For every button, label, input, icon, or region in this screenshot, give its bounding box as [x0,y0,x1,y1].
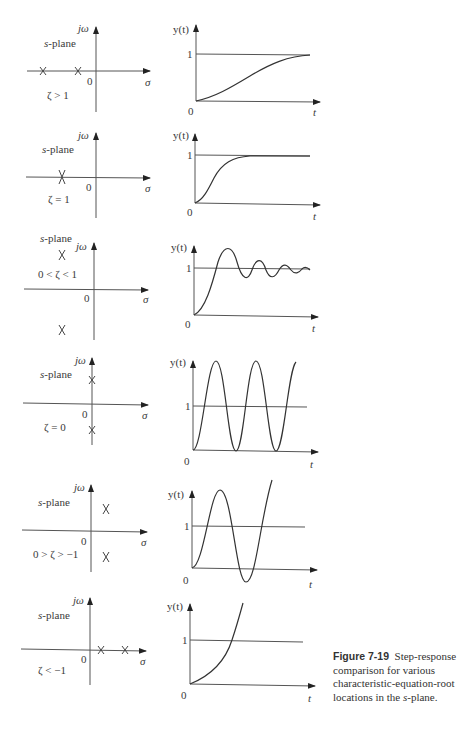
origin-label: 0 [86,181,92,193]
one-level-label: 1 [187,149,193,161]
figure-number: Figure 7-19 [333,650,389,662]
t-axis-label: t [308,692,312,704]
pole-x-icon [59,250,65,260]
origin-label: 0 [188,105,194,117]
sigma-axis-label: σ [145,182,151,194]
step-response-figure: jω s-plane 0 σ ζ > 1 y(t) 1 0 t jω s-pla… [0,0,462,738]
splane-label: s-plane [38,609,70,621]
splane-label: s-plane [42,143,74,155]
one-level-label: 1 [187,48,193,60]
response-plot-row-3 [194,246,318,317]
t-axis-label: t [309,578,313,590]
t-axis-label: t [313,210,317,222]
response-plot-row-6 [190,603,315,686]
yt-axis-label: y(t) [168,488,184,501]
origin-label: 0 [184,455,190,467]
jw-axis-label: jω [71,594,84,606]
jw-axis-label: jω [76,129,89,141]
splane-label: s-plane [40,232,72,244]
zeta-label: ζ = 0 [44,421,66,434]
caption-end: -plane. [407,691,437,703]
origin-label: 0 [181,689,187,701]
one-level-label: 1 [185,400,191,412]
one-level-label: 1 [182,634,188,646]
t-axis-label: t [313,106,317,118]
sigma-axis-label: σ [140,655,146,667]
zeta-label: 0 > ζ > −1 [33,548,78,561]
response-plot-row-5 [192,480,317,582]
response-plot-row-4 [193,361,318,452]
origin-label: 0 [183,574,189,586]
zeta-label: ζ < −1 [38,664,66,677]
zeta-label: 0 < ζ < 1 [38,268,77,281]
yt-axis-label: y(t) [173,129,189,142]
zeta-label: ζ > 1 [47,89,69,102]
t-axis-label: t [312,322,316,334]
jw-axis-label: jω [73,354,86,366]
origin-label: 0 [81,535,87,547]
t-axis-label: t [310,458,314,470]
sigma-axis-label: σ [141,536,147,548]
one-level-label: 1 [184,520,190,532]
origin-label: 0 [84,292,90,304]
splane-label: s-plane [44,37,76,49]
yt-axis-label: y(t) [173,23,189,36]
pole-x-icon [103,504,109,514]
sigma-axis-label: σ [145,76,151,88]
figure-caption: Figure 7-19 Step-response comparison for… [333,650,461,704]
origin-label: 0 [185,318,191,330]
jw-axis-label: jω [76,22,89,34]
jw-axis-label: jω [72,481,85,493]
pole-x-icon [59,325,65,335]
origin-label: 0 [187,206,193,218]
zeta-label: ζ = 1 [48,193,70,206]
yt-axis-label: y(t) [167,600,183,613]
origin-label: 0 [87,75,93,87]
origin-label: 0 [82,408,88,420]
jw-axis-label: jω [74,240,87,252]
splane-label: s-plane [40,368,72,380]
pole-x-icon [122,646,128,654]
response-plot-row-1 [196,25,320,102]
sigma-axis-label: σ [142,409,148,421]
yt-axis-label: y(t) [170,356,186,369]
one-level-label: 1 [186,262,192,274]
splane-label: s-plane [38,496,70,508]
origin-label: 0 [81,653,87,665]
pole-x-icon [103,552,109,562]
yt-axis-label: y(t) [171,241,187,254]
response-plot-row-2 [195,134,320,205]
sigma-axis-label: σ [143,293,149,305]
